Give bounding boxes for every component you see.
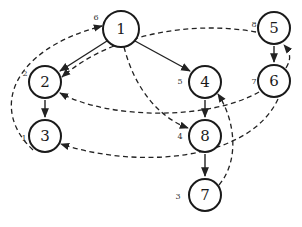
node-label: 4	[200, 73, 210, 91]
node-label: 5	[269, 19, 279, 37]
node-label: 2	[40, 73, 50, 91]
order-label: 7	[251, 77, 256, 86]
order-label: 1	[21, 134, 26, 143]
order-label: 6	[93, 13, 98, 22]
node-8: 8 4	[177, 120, 221, 152]
node-label: 8	[200, 127, 210, 145]
order-label: 8	[251, 20, 256, 29]
edge-6-to-5	[284, 45, 290, 68]
node-label: 1	[116, 20, 126, 38]
edge-1-to-4	[135, 41, 190, 71]
order-label: 2	[22, 69, 27, 78]
edge-1-to-8	[124, 47, 188, 128]
node-3: 3 1	[21, 120, 61, 152]
graph-diagram: 1 6 2 2 3 1 4 5 5 8 6 7 8 4 7 3	[0, 0, 302, 227]
order-label: 4	[177, 132, 182, 141]
order-label: 3	[175, 192, 180, 201]
edge-6-to-2	[60, 92, 259, 113]
edge-1-to-2	[60, 41, 107, 71]
node-1: 1 6	[93, 11, 139, 47]
node-6: 6 7	[251, 65, 290, 97]
solid-edges	[45, 41, 274, 176]
order-label: 5	[177, 77, 182, 86]
edge-6-to-3	[61, 99, 278, 157]
node-label: 7	[200, 186, 210, 204]
node-4: 4 5	[177, 66, 221, 98]
edge-5-to-2	[62, 28, 256, 77]
node-5: 5 8	[251, 12, 290, 44]
node-label: 6	[269, 72, 279, 90]
node-7: 7 3	[175, 179, 221, 211]
node-2: 2 2	[22, 66, 61, 98]
node-label: 3	[40, 127, 50, 145]
